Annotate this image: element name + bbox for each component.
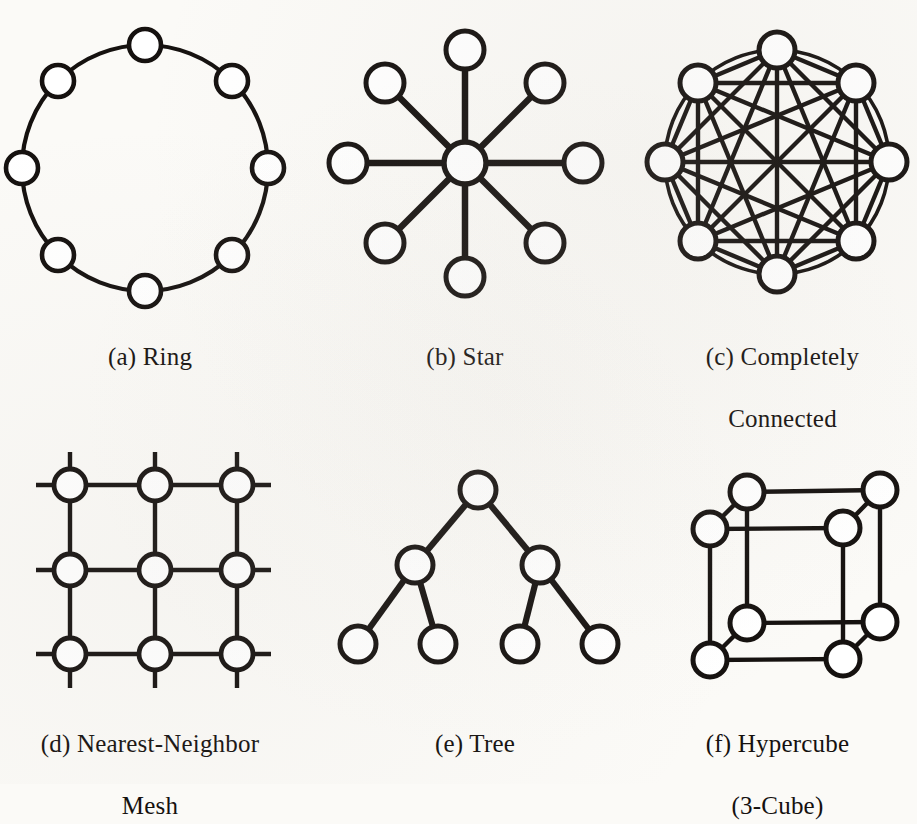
tree-node-leaf [582, 626, 618, 662]
cc-node [871, 144, 907, 180]
mesh-nodes [54, 469, 253, 670]
tree-edges [358, 490, 600, 644]
tree-node-internal [522, 547, 558, 583]
cube-node [863, 605, 897, 639]
ring-node [6, 152, 38, 184]
mesh-node [139, 554, 171, 586]
mesh-node [54, 469, 86, 501]
cube-node [693, 643, 727, 677]
mesh-node [139, 638, 171, 670]
panel-tree [330, 460, 630, 680]
tree-node-internal [397, 547, 433, 583]
caption-tree: (e) Tree [330, 697, 620, 790]
caption-tree-line-1: (e) Tree [330, 728, 620, 759]
mesh-node [221, 469, 253, 501]
cc-node [759, 32, 795, 68]
tree-node-leaf [420, 626, 456, 662]
panel-ring [0, 0, 305, 310]
cube-edge-back-bottom [747, 622, 880, 623]
cc-node [838, 65, 874, 101]
cube-edge-back-top [747, 490, 880, 492]
panel-hypercube [670, 460, 917, 685]
cc-node [838, 223, 874, 259]
star-node [526, 64, 564, 102]
cube-node [730, 606, 764, 640]
caption-mesh-line-1: (d) Nearest-Neighbor [0, 728, 300, 759]
mesh-node [139, 469, 171, 501]
ring-node [216, 65, 248, 97]
mesh-node [221, 638, 253, 670]
star-node [366, 224, 404, 262]
star-node [366, 64, 404, 102]
cube-node [863, 473, 897, 507]
mesh-node [54, 638, 86, 670]
completely-connected-diagram [630, 0, 917, 310]
star-node [564, 144, 602, 182]
star-node [526, 224, 564, 262]
cube-node [730, 475, 764, 509]
ring-node [129, 29, 161, 61]
caption-hypercube: (f) Hypercube (3-Cube) [650, 697, 905, 824]
cube-node [826, 511, 860, 545]
caption-hypercube-line-1: (f) Hypercube [650, 728, 905, 759]
caption-mesh: (d) Nearest-Neighbor Mesh [0, 697, 300, 824]
tree-node-leaf [340, 626, 376, 662]
caption-star: (b) Star [330, 310, 600, 403]
cube-edge-front-top [710, 528, 843, 529]
ring-node [42, 239, 74, 271]
ring-node [42, 65, 74, 97]
caption-ring-line-1: (a) Ring [0, 341, 300, 372]
mesh-diagram [0, 430, 310, 695]
ring-node [252, 152, 284, 184]
tree-nodes [340, 472, 618, 662]
star-hub-node [444, 142, 486, 184]
panel-star [320, 0, 610, 310]
ring-node [129, 275, 161, 307]
ring-node [216, 239, 248, 271]
caption-star-line-1: (b) Star [330, 341, 600, 372]
cube-node [826, 642, 860, 676]
cc-node [759, 256, 795, 292]
cc-node [680, 65, 716, 101]
tree-diagram [330, 460, 630, 680]
panel-mesh [0, 430, 310, 695]
caption-hypercube-line-2: (3-Cube) [650, 790, 905, 821]
tree-node-root [460, 472, 496, 508]
star-node [446, 258, 484, 296]
star-diagram [320, 0, 610, 310]
star-node [329, 144, 367, 182]
caption-cc-line-1: (c) Completely [655, 341, 910, 372]
cc-node [680, 223, 716, 259]
panel-completely-connected [630, 0, 917, 310]
ring-diagram [0, 0, 305, 310]
caption-mesh-line-2: Mesh [0, 790, 300, 821]
hypercube-nodes [693, 473, 897, 677]
hypercube-diagram [670, 460, 917, 685]
ring-nodes [6, 29, 284, 307]
tree-node-leaf [502, 626, 538, 662]
cube-edge-front-bottom [710, 659, 843, 660]
mesh-node [221, 554, 253, 586]
cc-node [647, 144, 683, 180]
caption-completely-connected: (c) Completely Connected [655, 310, 910, 465]
caption-ring: (a) Ring [0, 310, 300, 403]
caption-cc-line-2: Connected [655, 403, 910, 434]
star-node [446, 31, 484, 69]
cube-node [693, 512, 727, 546]
mesh-node [54, 554, 86, 586]
